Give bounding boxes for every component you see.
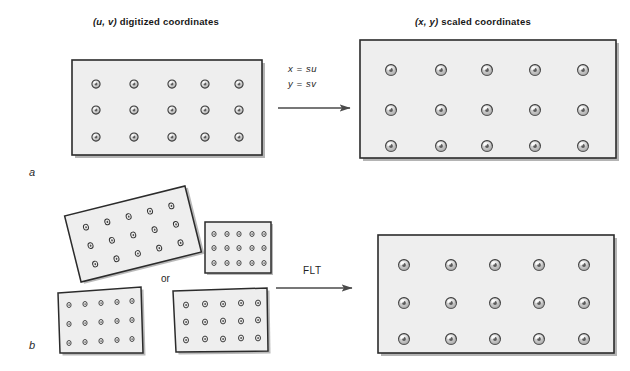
transform-label-flt: FLT — [303, 265, 322, 276]
caption-digitized-coordinates: (u, v) digitized coordinates — [93, 16, 219, 27]
panel-b-small-plate — [205, 222, 273, 275]
panel-label-a: a — [29, 166, 35, 178]
panel-b-skewed-plate — [58, 287, 146, 356]
caption-digitized-prefix: (u, v) — [93, 16, 117, 27]
alternative-label-or: or — [161, 273, 170, 284]
panel-b-rotated-plate — [65, 185, 205, 284]
caption-digitized-text: digitized coordinates — [117, 16, 219, 27]
figure-canvas: (u, v) digitized coordinates (x, y) scal… — [0, 0, 630, 371]
equation-y-equals-sv: y = sv — [288, 78, 317, 89]
caption-scaled-prefix: (x, y) — [415, 16, 438, 27]
panel-b-result-plate — [378, 235, 617, 356]
caption-scaled-coordinates: (x, y) scaled coordinates — [415, 16, 531, 27]
equation-x-equals-su: x = su — [288, 63, 317, 74]
panel-b-perspective-plate — [173, 288, 271, 355]
panel-label-b: b — [29, 339, 35, 351]
panel-a-source-plate — [72, 60, 265, 158]
caption-scaled-text: scaled coordinates — [438, 16, 531, 27]
diagram-svg — [0, 0, 630, 371]
panel-a-result-plate — [360, 40, 619, 161]
